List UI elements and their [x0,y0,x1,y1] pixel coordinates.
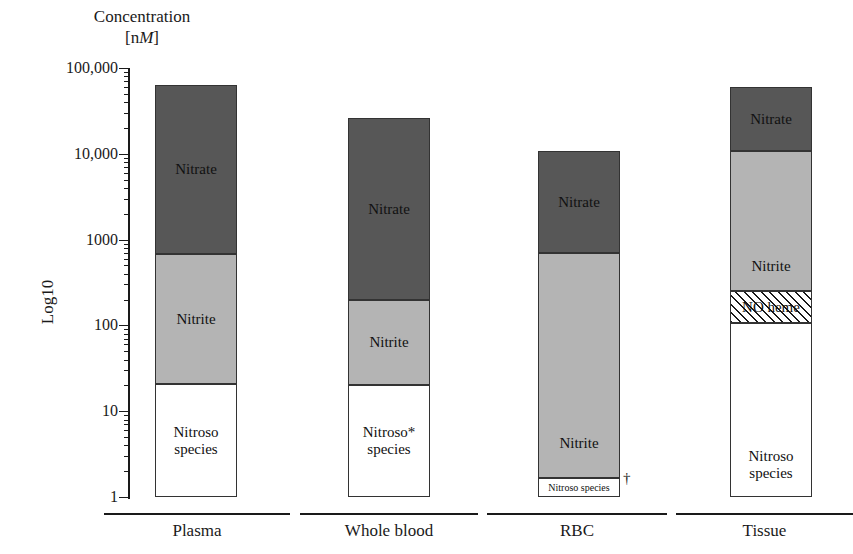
segment-tissue-nitrite: Nitrite [730,151,812,291]
y-axis-minor-tick [124,180,130,181]
segment-rbc-nitrite: Nitrite [538,253,620,478]
y-axis-major-tick [119,411,130,412]
segment-label: Nitrite [175,311,216,328]
y-axis-major-tick [119,68,130,69]
y-axis-label: Log10 [38,242,58,362]
segment-tissue-nitrate: Nitrate [730,87,812,151]
segment-rbc-nitroso: Nitroso species [538,478,620,497]
category-rule-rbc [487,513,667,515]
segment-label: Nitrate [749,111,793,128]
chart-title-line1: Concentration [42,6,242,27]
segment-plasma-nitrate: Nitrate [155,85,237,254]
segment-plasma-nitroso: Nitrosospecies [155,384,237,497]
chart-page: Concentration [nM] Log10 100,000 10,000 … [0,0,853,554]
bar-rbc: Nitrate Nitrite Nitroso species [538,151,620,497]
chart-title: Concentration [nM] [42,6,242,49]
segment-label: Nitrate [367,201,411,218]
y-axis-minor-tick [124,445,130,446]
y-axis-minor-tick [124,415,130,416]
segment-label-line1: Nitroso [174,424,219,440]
category-label-plasma: Plasma [104,521,290,541]
y-axis-minor-tick [124,334,130,335]
segment-label: Nitroso*species [362,424,417,458]
y-axis-minor-tick [124,344,130,345]
ytick-label-1: 1 [18,488,118,506]
y-axis-minor-tick [124,456,130,457]
y-axis-minor-tick [124,339,130,340]
category-label-rbc: RBC [487,521,667,541]
units-molar-symbol: M [139,28,153,47]
bar-tissue: Nitrate Nitrite NO heme Nitrosospecies [730,87,812,497]
y-axis-minor-tick [124,424,130,425]
segment-label: Nitrite [558,435,599,452]
ytick-label-10: 10 [18,402,118,420]
y-axis-minor-tick [124,471,130,472]
segment-label: Nitrosospecies [748,448,795,482]
y-axis-minor-tick [124,370,130,371]
bar-plasma: Nitrate Nitrite Nitrosospecies [155,85,237,497]
segment-label-line2: species [749,465,792,481]
ytick-label-100: 100 [18,316,118,334]
category-label-tissue: Tissue [676,521,853,541]
y-axis-minor-tick [124,162,130,163]
rbc-dagger-marker: † [623,471,631,486]
segment-label: Nitroso species [547,482,610,493]
category-rule-plasma [104,513,290,515]
y-axis-minor-tick [124,76,130,77]
segment-whole-blood-nitrate: Nitrate [348,118,430,300]
y-axis-minor-tick [124,385,130,386]
segment-label-line2: species [174,441,217,457]
y-axis-minor-tick [124,437,130,438]
category-label-whole-blood: Whole blood [300,521,478,541]
segment-label: Nitrosospecies [173,424,220,458]
y-axis-minor-tick [124,128,130,129]
category-rule-tissue [676,513,853,515]
y-axis-minor-tick [124,248,130,249]
y-axis-minor-tick [124,188,130,189]
ytick-label-1000: 1000 [18,231,118,249]
units-bracket-open: [n [125,28,139,47]
segment-whole-blood-nitroso: Nitroso*species [348,385,430,497]
y-axis-minor-tick [124,351,130,352]
bar-whole-blood: Nitrate Nitrite Nitroso*species [348,118,430,497]
segment-label: NO heme [741,299,801,316]
y-axis-minor-tick [124,102,130,103]
segment-whole-blood-nitrite: Nitrite [348,300,430,385]
y-axis-minor-tick [124,72,130,73]
segment-tissue-nitroso: Nitrosospecies [730,323,812,497]
segment-label: Nitrate [174,161,218,178]
segment-label-line1: Nitroso [749,448,794,464]
y-axis-minor-tick [124,173,130,174]
y-axis-minor-tick [124,360,130,361]
y-axis-minor-tick [124,167,130,168]
y-axis-major-tick [119,240,130,241]
y-axis-minor-tick [124,214,130,215]
segment-plasma-nitrite: Nitrite [155,254,237,384]
y-axis-major-tick [119,497,130,498]
y-axis-minor-tick [124,244,130,245]
y-axis-minor-tick [124,94,130,95]
y-axis-minor-tick [124,430,130,431]
segment-label: Nitrite [750,258,791,275]
ytick-label-100000: 100,000 [18,59,118,77]
ytick-label-10000: 10,000 [18,145,118,163]
y-axis-minor-tick [124,284,130,285]
segment-label: Nitrite [368,334,409,351]
segment-label-line2: species [367,441,410,457]
y-axis-major-tick [119,154,130,155]
chart-title-units: [nM] [42,27,242,48]
y-axis-major-tick [119,325,130,326]
y-axis-minor-tick [124,87,130,88]
y-axis-minor-tick [124,265,130,266]
y-axis-minor-tick [124,274,130,275]
y-axis-minor-tick [124,420,130,421]
category-rule-whole-blood [300,513,478,515]
y-axis-minor-tick [124,253,130,254]
segment-tissue-no-heme: NO heme [730,291,812,323]
y-axis-minor-tick [124,199,130,200]
y-axis-minor-tick [124,158,130,159]
y-axis-minor-tick [124,113,130,114]
segment-label: Nitrate [557,194,601,211]
y-axis-minor-tick [124,81,130,82]
y-axis-minor-tick [124,259,130,260]
